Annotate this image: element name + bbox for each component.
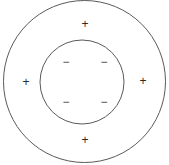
plus-sign-right: + (137, 75, 149, 87)
inner-circle (40, 40, 124, 124)
minus-sign-top-left: − (60, 56, 72, 68)
minus-sign-top-right: − (98, 56, 110, 68)
minus-sign-bottom-left: − (60, 96, 72, 108)
minus-sign-bottom-right: − (98, 96, 110, 108)
plus-sign-bottom: + (79, 134, 91, 146)
plus-sign-top: + (79, 18, 91, 30)
plus-sign-left: + (20, 76, 32, 88)
figure-canvas: + + + + − − − − (0, 0, 169, 165)
